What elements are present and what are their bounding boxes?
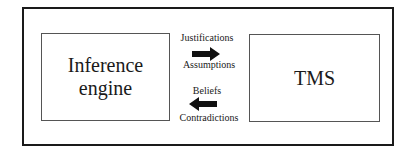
justifications-label: Justifications: [181, 32, 234, 43]
contradictions-label: Contradictions: [180, 112, 239, 123]
beliefs-label: Beliefs: [193, 85, 221, 96]
left-arrow-icon: [189, 97, 219, 111]
tms-box: TMS: [249, 34, 380, 122]
inference-engine-label-line2: engine: [68, 77, 144, 100]
inference-engine-box: Inference engine: [41, 33, 170, 121]
assumptions-label: Assumptions: [183, 59, 235, 70]
tms-label: TMS: [294, 67, 335, 90]
inference-engine-label-line1: Inference: [68, 54, 144, 77]
